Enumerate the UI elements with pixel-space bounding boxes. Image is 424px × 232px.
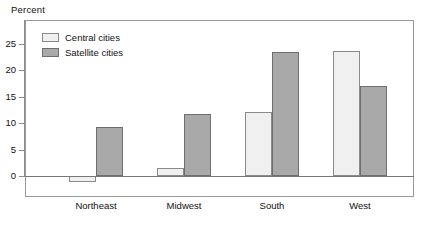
y-axis-tick-label: 15 bbox=[0, 92, 16, 102]
y-axis-tick-label: 20 bbox=[0, 65, 16, 75]
bar-west-satellite-cities bbox=[360, 86, 387, 176]
bar-chart: Percent 0510152025 NortheastMidwestSouth… bbox=[0, 0, 424, 232]
y-axis-tick bbox=[19, 97, 25, 98]
x-axis-label-midwest: Midwest bbox=[135, 200, 233, 211]
bar-midwest-satellite-cities bbox=[184, 114, 211, 176]
y-axis-title: Percent bbox=[11, 4, 45, 15]
zero-baseline bbox=[25, 176, 414, 177]
x-axis-label-west: West bbox=[311, 200, 409, 211]
y-axis-tick-label: 10 bbox=[0, 118, 16, 128]
y-axis-tick bbox=[19, 44, 25, 45]
legend-item-central-cities: Central cities bbox=[42, 31, 123, 44]
bar-south-central-cities bbox=[245, 112, 272, 176]
legend-swatch-icon-central-cities bbox=[42, 33, 59, 42]
y-axis-tick bbox=[19, 70, 25, 71]
bar-west-central-cities bbox=[333, 51, 360, 176]
legend-label-central-cities: Central cities bbox=[65, 33, 120, 43]
y-axis-tick-label: 5 bbox=[0, 145, 16, 155]
chart-legend: Central cities Satellite cities bbox=[42, 31, 123, 61]
y-axis-tick bbox=[19, 123, 25, 124]
bar-midwest-central-cities bbox=[157, 168, 184, 176]
x-axis-label-northeast: Northeast bbox=[47, 200, 145, 211]
bar-south-satellite-cities bbox=[272, 52, 299, 176]
y-axis-tick bbox=[19, 150, 25, 151]
bar-northeast-satellite-cities bbox=[96, 127, 123, 176]
legend-label-satellite-cities: Satellite cities bbox=[65, 48, 123, 58]
y-axis-tick-label: 0 bbox=[0, 171, 16, 181]
legend-item-satellite-cities: Satellite cities bbox=[42, 46, 123, 59]
x-axis-label-south: South bbox=[223, 200, 321, 211]
y-axis-tick-label: 25 bbox=[0, 39, 16, 49]
legend-swatch-icon-satellite-cities bbox=[42, 48, 59, 57]
